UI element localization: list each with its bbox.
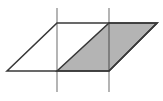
shaded-parallelogram — [57, 23, 157, 71]
parallelogram-diagram — [0, 0, 163, 101]
figure-canvas — [0, 0, 163, 101]
